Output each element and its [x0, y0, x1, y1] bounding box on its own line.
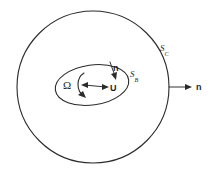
label-angular-velocity: Ω [63, 80, 71, 91]
physics-diagram: SC SB n n Ω U [0, 0, 213, 172]
outer-normal-arrowhead [185, 84, 192, 90]
label-control-surface: SC [160, 44, 169, 55]
label-outer-normal: n [196, 83, 202, 92]
diagram-canvas [0, 0, 213, 172]
label-control-surface-subscript: C [165, 51, 169, 57]
control-surface-circle [17, 11, 169, 163]
label-body-surface-subscript: B [135, 77, 139, 83]
label-body-surface-text: S [130, 69, 135, 79]
inner-normal-arrowhead [111, 72, 117, 80]
label-control-surface-text: S [160, 43, 165, 53]
velocity-vector-arrowhead [102, 84, 109, 90]
angular-velocity-arrowhead [78, 91, 86, 98]
velocity-vector-tail-arrowhead [81, 82, 88, 88]
label-translational-velocity: U [110, 84, 117, 93]
label-inner-normal: n [113, 64, 119, 73]
label-body-surface: SB [130, 70, 138, 81]
